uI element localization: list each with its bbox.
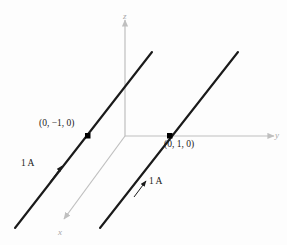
marker-point-left xyxy=(85,133,91,139)
wire-group xyxy=(15,52,238,228)
coord-label-right: (0, 1, 0) xyxy=(164,140,194,150)
x-axis-label: x xyxy=(58,228,62,237)
y-axis-label: y xyxy=(275,131,279,140)
current-arrow-group xyxy=(50,166,146,197)
wire-left xyxy=(15,52,152,228)
current-wires-diagram: (0, −1, 0) (0, 1, 0) 1 A 1 A z y x xyxy=(0,0,287,245)
current-label-right: 1 A xyxy=(149,177,162,187)
current-label-left: 1 A xyxy=(21,159,34,169)
coord-label-left: (0, −1, 0) xyxy=(39,119,74,129)
axis-group xyxy=(64,20,274,219)
current-arrow-left xyxy=(50,166,62,182)
marker-point-right xyxy=(167,133,173,139)
z-axis-label: z xyxy=(123,12,127,21)
